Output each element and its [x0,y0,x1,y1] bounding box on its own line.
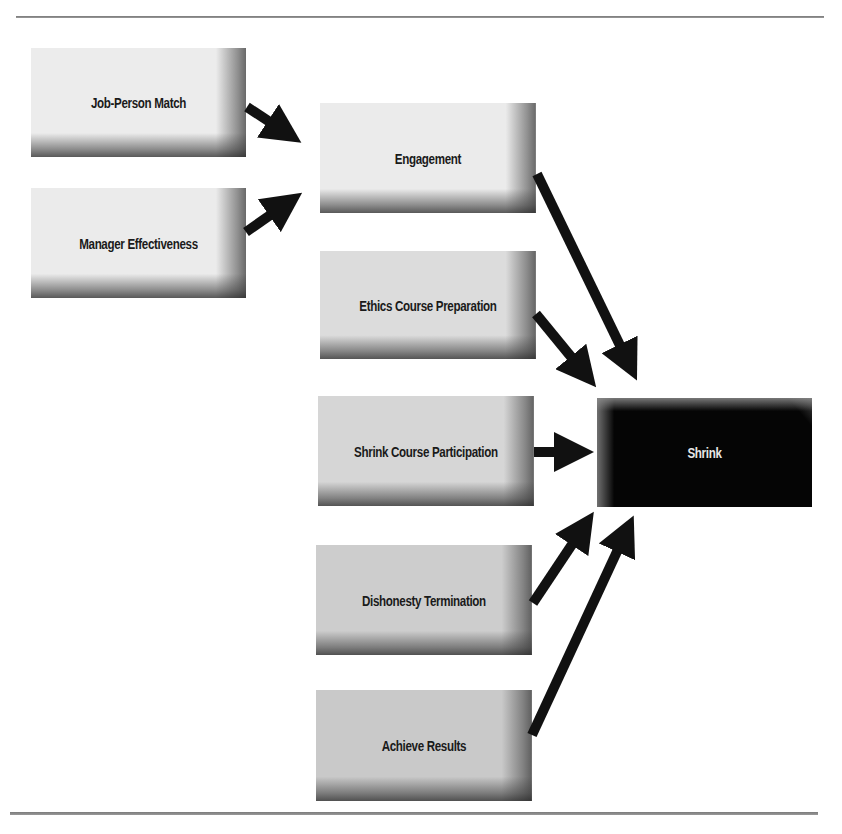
node-shrink: Shrink [597,398,812,507]
node-manager-effectiveness: Manager Effectiveness [31,188,246,298]
node-label: Achieve Results [382,737,467,754]
node-label: Engagement [395,150,461,167]
node-job-person-match: Job-Person Match [31,48,246,157]
top-rule [16,16,824,18]
node-label: Dishonesty Termination [362,592,486,609]
node-ethics-course-preparation: Ethics Course Preparation [320,251,536,359]
arrow-ethics-course-preparation-to-shrink [536,314,586,375]
bottom-rule [10,812,818,815]
arrow-job-person-match-to-engagement [247,107,288,134]
arrow-manager-effectiveness-to-engagement [246,202,289,232]
arrow-dishonesty-termination-to-shrink [533,525,585,603]
node-dishonesty-termination: Dishonesty Termination [316,545,532,655]
node-label: Shrink [687,444,721,461]
node-achieve-results: Achieve Results [316,690,532,801]
node-shrink-course-participation: Shrink Course Participation [318,396,534,506]
node-label: Shrink Course Participation [354,443,498,460]
node-engagement: Engagement [320,103,536,213]
node-label: Manager Effectiveness [79,235,198,252]
arrow-achieve-results-to-shrink [532,530,627,735]
node-label: Ethics Course Preparation [359,297,496,314]
node-label: Job-Person Match [91,94,186,111]
